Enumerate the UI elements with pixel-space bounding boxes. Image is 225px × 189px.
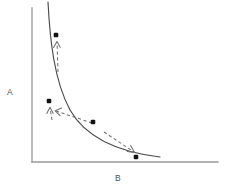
data-point-markers	[47, 33, 139, 160]
tradeoff-figure: A B	[0, 0, 225, 189]
tradeoff-curve	[48, 2, 160, 157]
arrow-2-head	[47, 107, 53, 113]
arrow-3-shaft	[56, 111, 92, 123]
y-axis-label: A	[7, 87, 13, 97]
point-3-marker	[91, 120, 96, 125]
point-4-marker	[134, 155, 139, 160]
arrow-4-shaft	[104, 132, 134, 152]
x-axis-label: B	[115, 173, 121, 183]
point-1-marker	[54, 33, 59, 38]
arrow-1-shaft	[57, 42, 58, 72]
annotation-arrows	[47, 41, 135, 152]
figure-canvas: A B	[0, 0, 225, 189]
point-2-marker	[47, 99, 52, 104]
